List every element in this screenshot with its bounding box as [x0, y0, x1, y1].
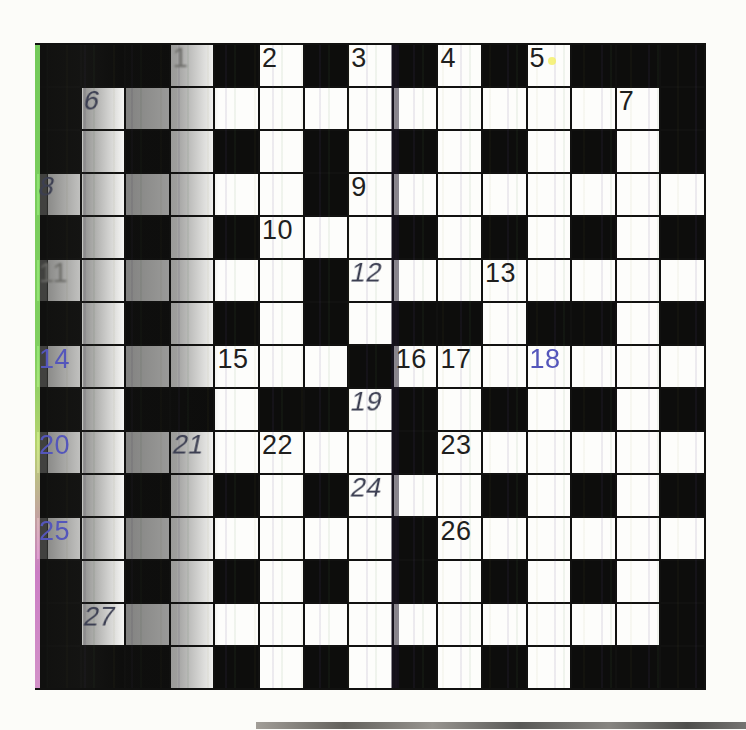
grid-cell-r4-c11[interactable]: [528, 217, 571, 258]
grid-cell-r7-c14[interactable]: [661, 346, 704, 387]
grid-cell-r9-c1[interactable]: [82, 432, 125, 473]
grid-cell-r3-c4[interactable]: [215, 174, 258, 215]
grid-cell-r11-c11[interactable]: [528, 518, 571, 559]
grid-cell-r1-c2[interactable]: [126, 88, 169, 129]
grid-cell-r11-c9[interactable]: 26: [438, 518, 481, 559]
grid-cell-r5-c8[interactable]: [394, 260, 437, 301]
grid-cell-r9-c14[interactable]: [661, 432, 704, 473]
grid-cell-r5-c9[interactable]: [438, 260, 481, 301]
grid-cell-r11-c10[interactable]: [483, 518, 526, 559]
grid-cell-r1-c13[interactable]: 7: [617, 88, 660, 129]
grid-cell-r9-c7[interactable]: [349, 432, 392, 473]
grid-cell-r14-c5[interactable]: [260, 647, 303, 688]
grid-cell-r1-c5[interactable]: [260, 88, 303, 129]
grid-cell-r7-c10[interactable]: [483, 346, 526, 387]
grid-cell-r3-c1[interactable]: [82, 174, 125, 215]
grid-cell-r13-c13[interactable]: [617, 604, 660, 645]
grid-cell-r9-c3[interactable]: 21: [171, 432, 214, 473]
grid-cell-r11-c2[interactable]: [126, 518, 169, 559]
grid-cell-r13-c12[interactable]: [572, 604, 615, 645]
grid-cell-r9-c0[interactable]: 20: [37, 432, 80, 473]
grid-cell-r7-c3[interactable]: [171, 346, 214, 387]
grid-cell-r11-c6[interactable]: [305, 518, 348, 559]
grid-cell-r9-c5[interactable]: 22: [260, 432, 303, 473]
grid-cell-r6-c7[interactable]: [349, 303, 392, 344]
grid-cell-r13-c9[interactable]: [438, 604, 481, 645]
grid-cell-r2-c1[interactable]: [82, 131, 125, 172]
grid-cell-r5-c13[interactable]: [617, 260, 660, 301]
grid-cell-r10-c11[interactable]: [528, 475, 571, 516]
grid-cell-r4-c13[interactable]: [617, 217, 660, 258]
grid-cell-r0-c11[interactable]: 5: [528, 45, 571, 86]
grid-cell-r8-c13[interactable]: [617, 389, 660, 430]
grid-cell-r13-c5[interactable]: [260, 604, 303, 645]
grid-cell-r5-c3[interactable]: [171, 260, 214, 301]
grid-cell-r2-c9[interactable]: [438, 131, 481, 172]
grid-cell-r4-c9[interactable]: [438, 217, 481, 258]
grid-cell-r7-c8[interactable]: 16: [394, 346, 437, 387]
grid-cell-r10-c1[interactable]: [82, 475, 125, 516]
grid-cell-r3-c13[interactable]: [617, 174, 660, 215]
grid-cell-r1-c1[interactable]: 6: [82, 88, 125, 129]
grid-cell-r10-c3[interactable]: [171, 475, 214, 516]
grid-cell-r5-c7[interactable]: 12: [349, 260, 392, 301]
grid-cell-r9-c9[interactable]: 23: [438, 432, 481, 473]
grid-cell-r5-c2[interactable]: [126, 260, 169, 301]
grid-cell-r12-c11[interactable]: [528, 561, 571, 602]
grid-cell-r1-c10[interactable]: [483, 88, 526, 129]
grid-cell-r13-c11[interactable]: [528, 604, 571, 645]
grid-cell-r6-c13[interactable]: [617, 303, 660, 344]
grid-cell-r3-c11[interactable]: [528, 174, 571, 215]
grid-cell-r3-c2[interactable]: [126, 174, 169, 215]
grid-cell-r3-c7[interactable]: 9: [349, 174, 392, 215]
grid-cell-r0-c9[interactable]: 4: [438, 45, 481, 86]
grid-cell-r9-c6[interactable]: [305, 432, 348, 473]
grid-cell-r13-c4[interactable]: [215, 604, 258, 645]
grid-cell-r5-c12[interactable]: [572, 260, 615, 301]
grid-cell-r13-c2[interactable]: [126, 604, 169, 645]
grid-cell-r7-c11[interactable]: 18: [528, 346, 571, 387]
grid-cell-r9-c10[interactable]: [483, 432, 526, 473]
grid-cell-r3-c5[interactable]: [260, 174, 303, 215]
grid-cell-r6-c1[interactable]: [82, 303, 125, 344]
grid-cell-r2-c7[interactable]: [349, 131, 392, 172]
grid-cell-r7-c9[interactable]: 17: [438, 346, 481, 387]
grid-cell-r5-c14[interactable]: [661, 260, 704, 301]
grid-cell-r9-c11[interactable]: [528, 432, 571, 473]
grid-cell-r1-c4[interactable]: [215, 88, 258, 129]
grid-cell-r13-c8[interactable]: [394, 604, 437, 645]
grid-cell-r5-c5[interactable]: [260, 260, 303, 301]
grid-cell-r12-c7[interactable]: [349, 561, 392, 602]
grid-cell-r13-c10[interactable]: [483, 604, 526, 645]
grid-cell-r0-c7[interactable]: 3: [349, 45, 392, 86]
grid-cell-r9-c13[interactable]: [617, 432, 660, 473]
grid-cell-r1-c11[interactable]: [528, 88, 571, 129]
grid-cell-r7-c6[interactable]: [305, 346, 348, 387]
grid-cell-r13-c3[interactable]: [171, 604, 214, 645]
grid-cell-r7-c12[interactable]: [572, 346, 615, 387]
grid-cell-r13-c7[interactable]: [349, 604, 392, 645]
grid-cell-r5-c11[interactable]: [528, 260, 571, 301]
grid-cell-r10-c5[interactable]: [260, 475, 303, 516]
grid-cell-r7-c0[interactable]: 14: [37, 346, 80, 387]
grid-cell-r8-c1[interactable]: [82, 389, 125, 430]
grid-cell-r10-c13[interactable]: [617, 475, 660, 516]
grid-cell-r0-c5[interactable]: 2: [260, 45, 303, 86]
grid-cell-r14-c11[interactable]: [528, 647, 571, 688]
grid-cell-r13-c6[interactable]: [305, 604, 348, 645]
grid-cell-r3-c10[interactable]: [483, 174, 526, 215]
grid-cell-r8-c7[interactable]: 19: [349, 389, 392, 430]
grid-cell-r3-c14[interactable]: [661, 174, 704, 215]
grid-cell-r7-c2[interactable]: [126, 346, 169, 387]
grid-cell-r1-c12[interactable]: [572, 88, 615, 129]
grid-cell-r11-c3[interactable]: [171, 518, 214, 559]
grid-cell-r11-c4[interactable]: [215, 518, 258, 559]
grid-cell-r1-c3[interactable]: [171, 88, 214, 129]
grid-cell-r12-c9[interactable]: [438, 561, 481, 602]
grid-cell-r2-c3[interactable]: [171, 131, 214, 172]
grid-cell-r3-c3[interactable]: [171, 174, 214, 215]
grid-cell-r7-c4[interactable]: 15: [215, 346, 258, 387]
grid-cell-r0-c3[interactable]: 1: [171, 45, 214, 86]
grid-cell-r4-c6[interactable]: [305, 217, 348, 258]
grid-cell-r3-c0[interactable]: 8: [37, 174, 80, 215]
